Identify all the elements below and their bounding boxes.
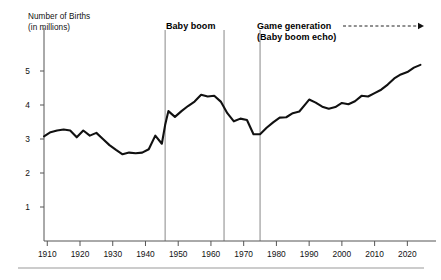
x-tick-label-1960: 1960 <box>202 249 221 259</box>
y-tick-label-2: 2 <box>18 168 30 178</box>
game-generation-arrow-head <box>418 23 424 29</box>
x-tick-label-1980: 1980 <box>267 249 286 259</box>
x-tick-label-1990: 1990 <box>300 249 319 259</box>
y-tick-label-4: 4 <box>18 100 30 110</box>
chart-container: Number of Births (in millions) Baby boom… <box>0 0 441 280</box>
y-tick-label-5: 5 <box>18 66 30 76</box>
x-tick-label-2010: 2010 <box>365 249 384 259</box>
x-tick-label-1910: 1910 <box>38 249 57 259</box>
births-line-series <box>44 65 420 154</box>
x-tick-label-1920: 1920 <box>71 249 90 259</box>
x-tick-label-1940: 1940 <box>136 249 155 259</box>
x-tick-label-2020: 2020 <box>398 249 417 259</box>
x-tick-label-2000: 2000 <box>333 249 352 259</box>
x-tick-label-1930: 1930 <box>103 249 122 259</box>
y-tick-label-1: 1 <box>18 202 30 212</box>
x-tick-label-1950: 1950 <box>169 249 188 259</box>
chart-plot <box>0 0 441 280</box>
y-tick-label-3: 3 <box>18 134 30 144</box>
x-tick-label-1970: 1970 <box>234 249 253 259</box>
